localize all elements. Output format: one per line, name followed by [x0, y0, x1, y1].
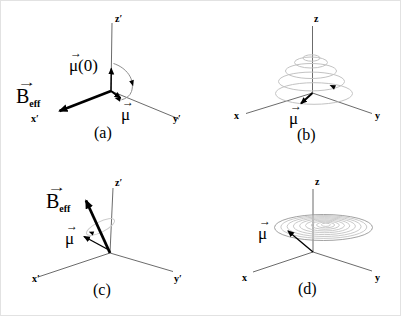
y-axis [313, 252, 372, 271]
spiral-disk-d [275, 215, 373, 241]
caption-a: (a) [94, 125, 112, 141]
spiral-loop [303, 55, 320, 61]
y-axis [313, 93, 373, 114]
panel-b-axes [246, 26, 372, 114]
caption-b: (b) [297, 127, 316, 143]
vector-arrow-icon: → [16, 79, 55, 86]
mu-label-d: → μ [258, 218, 271, 242]
b-eff-vector [86, 201, 110, 254]
spiral-loop [295, 57, 328, 68]
axis-label-x-b: x [234, 111, 239, 121]
x-axis [253, 252, 313, 272]
axis-label-x-prime-a: x′ [31, 114, 39, 124]
caption-c: (c) [93, 282, 111, 298]
axis-label-y-prime-c: y′ [174, 274, 182, 284]
mu0-label-a: → μ(0) [69, 50, 98, 74]
figure-canvas [1, 1, 401, 316]
mu-symbol: μ [121, 105, 130, 124]
axis-label-y-prime-a: y′ [173, 114, 181, 124]
y-prime-axis [110, 253, 173, 272]
caption-d: (d) [298, 281, 317, 297]
axis-label-z-prime-c: z′ [115, 178, 122, 188]
panel-c-vectors [84, 201, 110, 254]
disk-loop [321, 223, 330, 226]
axis-label-x-d: x [242, 273, 247, 283]
mu-label-c: → μ [65, 223, 78, 247]
mu-label-b: → μ [289, 103, 302, 127]
b-eff-subscript: eff [29, 98, 40, 109]
spiral-loop [286, 64, 337, 79]
b-eff-subscript: eff [59, 203, 70, 214]
b-eff-label-a: → Beff [16, 79, 40, 109]
axis-label-z-b: z [314, 14, 318, 24]
axis-label-y-d: y [375, 273, 380, 283]
axis-label-z-prime-a: z′ [115, 14, 122, 24]
mu-label-a: → μ [121, 99, 134, 123]
axis-label-z-d: z [315, 177, 319, 187]
mu-symbol: μ [258, 224, 267, 243]
z-prime-axis [110, 188, 113, 253]
b-eff-label-c: → Beff [46, 184, 70, 214]
b-eff-vector [60, 91, 112, 111]
ring-arrowhead-icon [88, 230, 94, 235]
ring-direction-arrowhead [88, 230, 94, 235]
x-prime-axis [38, 253, 110, 277]
precession-figure: z′ y′ x′ → Beff → μ(0) → μ (a) z x y → μ… [0, 0, 401, 316]
vector-arrow-icon: → [46, 184, 85, 191]
spiral-trajectory-b [276, 55, 353, 104]
axis-label-x-prime-c: x′ [32, 274, 40, 284]
mu0-symbol: μ(0) [69, 56, 98, 75]
axis-label-y-b: y [375, 111, 380, 121]
mu-symbol: μ [65, 229, 74, 248]
